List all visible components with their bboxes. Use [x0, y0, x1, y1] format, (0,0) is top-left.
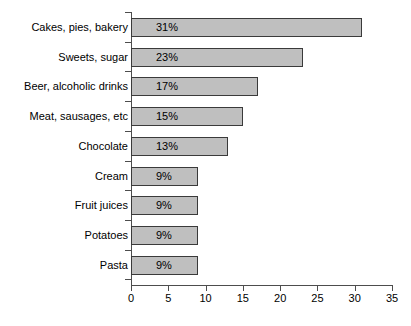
x-axis-tick	[355, 286, 356, 291]
x-axis-tick-label: 30	[340, 292, 370, 305]
x-axis-tick-label: 20	[265, 292, 295, 305]
x-axis-tick	[392, 286, 393, 291]
category-label: Potatoes	[0, 229, 128, 242]
x-axis-line	[131, 285, 393, 286]
x-axis-tick-label: 10	[191, 292, 221, 305]
category-label: Sweets, sugar	[0, 51, 128, 64]
category-label: Meat, sausages, etc	[0, 110, 128, 123]
x-axis-tick-label: 35	[377, 292, 407, 305]
x-axis-tick-label: 5	[153, 292, 183, 305]
category-label: Beer, alcoholic drinks	[0, 80, 128, 93]
category-label: Cakes, pies, bakery	[0, 21, 128, 34]
bar-value-label: 9%	[156, 196, 172, 215]
x-axis-tick-label: 15	[228, 292, 258, 305]
y-axis-tick	[125, 279, 132, 280]
x-axis-tick	[206, 286, 207, 291]
plot-area: Cakes, pies, bakery31%Sweets, sugar23%Be…	[0, 0, 411, 326]
bar-value-label: 13%	[156, 137, 178, 156]
category-label: Cream	[0, 170, 128, 183]
category-label: Fruit juices	[0, 199, 128, 212]
x-axis-tick	[317, 286, 318, 291]
x-axis-tick-label: 0	[116, 292, 146, 305]
y-axis-tick	[125, 71, 132, 72]
bar-value-label: 31%	[156, 18, 178, 37]
bar-value-label: 9%	[156, 256, 172, 275]
x-axis-tick-label: 25	[302, 292, 332, 305]
y-axis-tick	[125, 101, 132, 102]
bar-value-label: 9%	[156, 226, 172, 245]
bar-value-label: 17%	[156, 77, 178, 96]
bar-value-label: 9%	[156, 167, 172, 186]
bar	[131, 137, 228, 156]
y-axis-tick	[125, 220, 132, 221]
y-axis-tick	[125, 190, 132, 191]
bar	[131, 107, 243, 126]
bar-value-label: 15%	[156, 107, 178, 126]
x-axis-tick	[131, 286, 132, 291]
y-axis-tick	[125, 12, 132, 13]
x-axis-tick	[280, 286, 281, 291]
y-axis-tick	[125, 250, 132, 251]
x-axis-tick	[168, 286, 169, 291]
x-axis-tick	[243, 286, 244, 291]
y-axis-tick	[125, 161, 132, 162]
category-label: Chocolate	[0, 140, 128, 153]
y-axis-tick	[125, 131, 132, 132]
bar-value-label: 23%	[156, 48, 178, 67]
bar	[131, 77, 258, 96]
bar-chart: Cakes, pies, bakery31%Sweets, sugar23%Be…	[0, 0, 411, 326]
category-label: Pasta	[0, 259, 128, 272]
y-axis-tick	[125, 42, 132, 43]
